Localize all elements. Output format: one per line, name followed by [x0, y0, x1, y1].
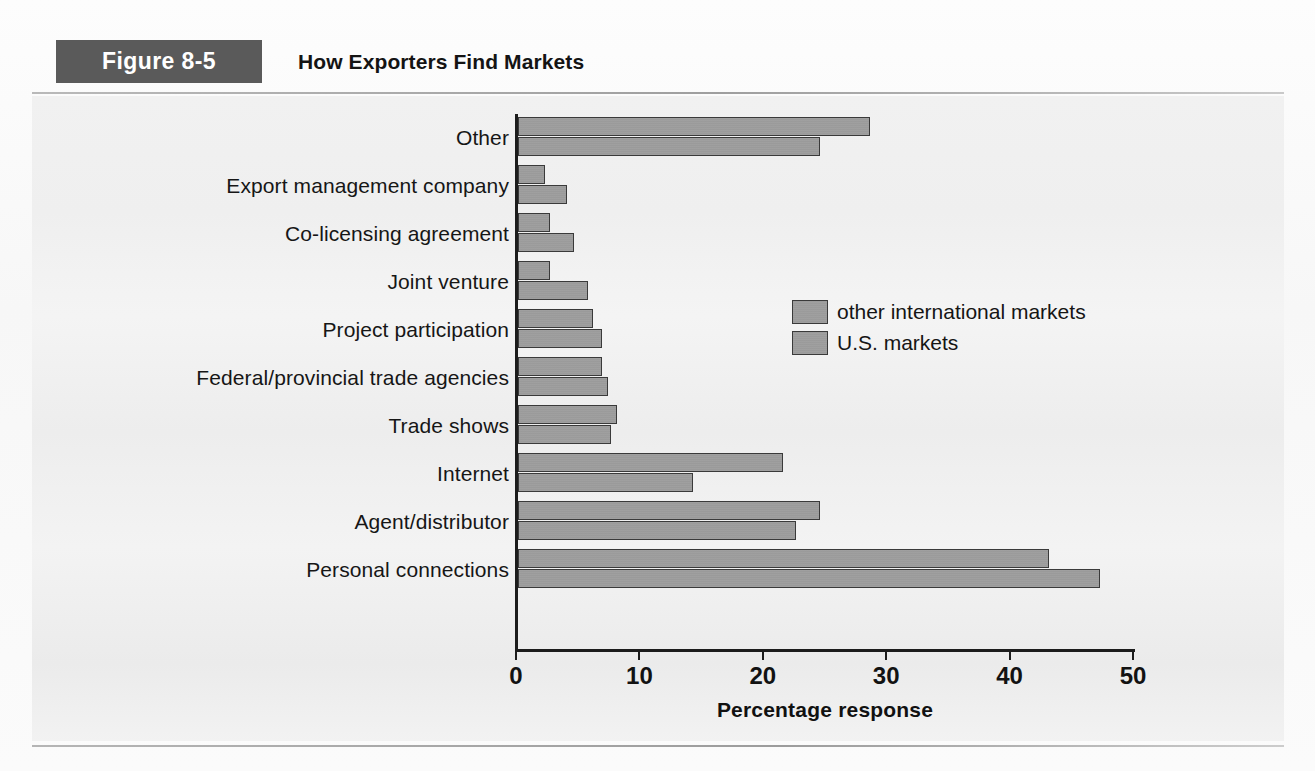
x-axis-tick [885, 649, 887, 660]
x-axis-tick-label: 0 [509, 662, 522, 690]
chart-category-row: Internet [32, 450, 1284, 498]
x-axis-tick-label: 20 [749, 662, 776, 690]
legend-item: U.S. markets [792, 327, 1122, 358]
x-axis-line [515, 649, 1135, 652]
bar-us-markets [518, 425, 611, 444]
bar-us-markets [518, 473, 693, 492]
chart-plot-area: OtherExport management companyCo-licensi… [32, 96, 1284, 741]
y-axis-category-label: Project participation [322, 318, 509, 342]
x-axis-tick [515, 649, 517, 660]
x-axis-tick [1009, 649, 1011, 660]
bar-us-markets [518, 329, 602, 348]
bar-other-international-markets [518, 501, 820, 520]
figure-container: Figure 8-5 How Exporters Find Markets Ot… [0, 0, 1315, 771]
chart-category-row: Other [32, 114, 1284, 162]
y-axis-category-label: Trade shows [388, 414, 509, 438]
bar-other-international-markets [518, 357, 602, 376]
bar-other-international-markets [518, 453, 783, 472]
x-axis-tick-label: 50 [1120, 662, 1147, 690]
bar-us-markets [518, 377, 608, 396]
x-axis-tick [762, 649, 764, 660]
bar-other-international-markets [518, 405, 617, 424]
chart-category-row: Agent/distributor [32, 498, 1284, 546]
figure-number-badge: Figure 8-5 [56, 40, 262, 83]
x-axis-tick-label: 10 [626, 662, 653, 690]
bar-us-markets [518, 185, 567, 204]
bar-other-international-markets [518, 165, 545, 184]
y-axis-category-label: Agent/distributor [354, 510, 509, 534]
bar-us-markets [518, 233, 574, 252]
bar-us-markets [518, 569, 1100, 588]
bar-other-international-markets [518, 117, 870, 136]
bar-other-international-markets [518, 549, 1049, 568]
chart-category-row: Co-licensing agreement [32, 210, 1284, 258]
legend-label: U.S. markets [837, 331, 958, 355]
legend-label: other international markets [837, 300, 1086, 324]
x-axis-title: Percentage response [515, 698, 1135, 722]
figure-title: How Exporters Find Markets [262, 40, 1278, 83]
chart-category-row: Export management company [32, 162, 1284, 210]
legend-swatch-icon [792, 300, 828, 324]
bar-us-markets [518, 521, 796, 540]
y-axis-category-label: Co-licensing agreement [285, 222, 509, 246]
y-axis-category-label: Other [456, 126, 509, 150]
bar-us-markets [518, 137, 820, 156]
bar-other-international-markets [518, 261, 550, 280]
bar-other-international-markets [518, 309, 593, 328]
legend-swatch-icon [792, 331, 828, 355]
chart-category-row: Federal/provincial trade agencies [32, 354, 1284, 402]
figure-title-bar: Figure 8-5 How Exporters Find Markets [56, 40, 1278, 83]
x-axis-tick [638, 649, 640, 660]
bar-other-international-markets [518, 213, 550, 232]
y-axis-category-label: Personal connections [306, 558, 509, 582]
x-axis-tick-label: 40 [996, 662, 1023, 690]
title-divider-rule [32, 92, 1284, 94]
figure-bottom-rule [32, 745, 1284, 747]
x-axis-tick-label: 30 [873, 662, 900, 690]
y-axis-category-label: Export management company [226, 174, 509, 198]
bar-us-markets [518, 281, 588, 300]
chart-category-row: Trade shows [32, 402, 1284, 450]
chart-category-row: Personal connections [32, 546, 1284, 594]
y-axis-category-label: Internet [437, 462, 509, 486]
chart-legend: other international marketsU.S. markets [792, 296, 1122, 358]
legend-item: other international markets [792, 296, 1122, 327]
y-axis-category-label: Federal/provincial trade agencies [196, 366, 509, 390]
x-axis-tick [1132, 649, 1134, 660]
y-axis-category-label: Joint venture [387, 270, 509, 294]
